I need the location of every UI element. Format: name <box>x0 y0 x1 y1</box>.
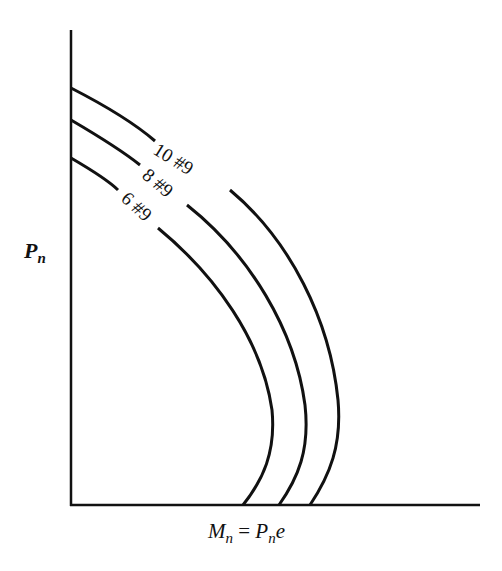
interaction-diagram: 10 #9 8 #9 6 #9 Pn Mn = Pne <box>0 0 502 571</box>
curve-label-6: 6 #9 <box>117 187 156 225</box>
curve-10-bars <box>71 88 339 505</box>
y-axis-label: Pn <box>23 238 46 266</box>
curve-6-bars <box>71 158 273 505</box>
x-axis-label: Mn = Pne <box>207 519 285 546</box>
